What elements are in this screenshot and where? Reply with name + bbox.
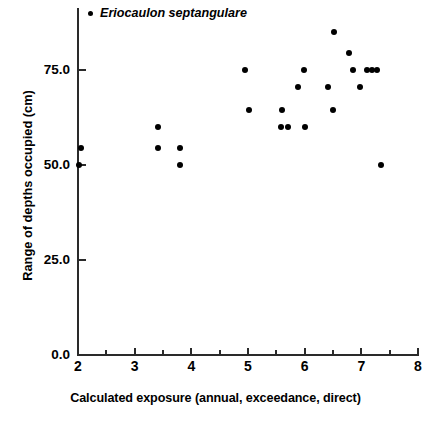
data-point: [357, 84, 363, 90]
data-point: [155, 145, 161, 151]
x-axis-tick: [190, 348, 192, 355]
data-point: [346, 50, 352, 56]
scatter-plot-figure: 0.025.050.075.02345678 Eriocaulon septan…: [0, 0, 431, 422]
data-point: [350, 67, 356, 73]
x-axis-tick: [417, 348, 419, 355]
x-axis-tick-label: 4: [179, 359, 203, 373]
x-axis-minor-tick: [389, 350, 391, 355]
y-axis-tick: [79, 259, 86, 261]
data-point: [177, 145, 183, 151]
x-axis-tick: [134, 348, 136, 355]
y-axis-title: Range of depths occupied (cm): [20, 46, 35, 326]
x-axis-tick-label: 6: [293, 359, 317, 373]
x-axis-minor-tick: [219, 350, 221, 355]
x-axis-tick: [247, 348, 249, 355]
data-point: [76, 162, 82, 168]
x-axis-tick-label: 3: [123, 359, 147, 373]
data-point: [378, 162, 384, 168]
data-point: [242, 67, 248, 73]
x-axis-tick-label: 2: [66, 359, 90, 373]
x-axis-title: Calculated exposure (annual, exceedance,…: [0, 391, 431, 405]
data-point: [285, 124, 291, 130]
x-axis-tick: [304, 348, 306, 355]
data-point: [78, 145, 84, 151]
y-axis-tick-label: 25.0: [8, 253, 70, 267]
data-point: [301, 67, 307, 73]
x-axis-tick: [77, 348, 79, 355]
x-axis-tick: [360, 348, 362, 355]
data-point: [155, 124, 161, 130]
data-point: [331, 29, 337, 35]
data-point: [177, 162, 183, 168]
data-point: [246, 107, 252, 113]
legend: Eriocaulon septangulare: [88, 7, 247, 20]
x-axis-minor-tick: [332, 350, 334, 355]
data-point: [295, 84, 301, 90]
y-axis-tick: [79, 354, 86, 356]
x-axis-tick-label: 7: [349, 359, 373, 373]
data-point: [302, 124, 308, 130]
y-axis-tick-label: 50.0: [8, 158, 70, 172]
legend-dot-marker-icon: [88, 11, 93, 16]
y-axis-line: [77, 8, 79, 356]
x-axis-minor-tick: [105, 350, 107, 355]
data-point: [279, 107, 285, 113]
data-point: [330, 107, 336, 113]
legend-series-label: Eriocaulon septangulare: [100, 7, 247, 20]
x-axis-tick-label: 8: [406, 359, 430, 373]
y-axis-tick: [79, 69, 86, 71]
data-point: [325, 84, 331, 90]
y-axis-tick-label: 0.0: [8, 348, 70, 362]
x-axis-minor-tick: [162, 350, 164, 355]
x-axis-minor-tick: [275, 350, 277, 355]
y-axis-tick-label: 75.0: [8, 63, 70, 77]
data-point: [374, 67, 380, 73]
x-axis-tick-label: 5: [236, 359, 260, 373]
data-point: [278, 124, 284, 130]
